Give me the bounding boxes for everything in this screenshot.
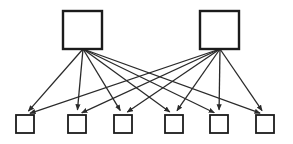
top-node-t1[interactable] bbox=[63, 11, 102, 49]
edges-layer bbox=[28, 49, 262, 113]
diagram-canvas bbox=[0, 0, 293, 144]
edge-t2-to-b1 bbox=[30, 49, 220, 113]
bottom-node-b4[interactable] bbox=[165, 115, 183, 133]
edge-t2-to-b3 bbox=[127, 49, 220, 112]
edge-t1-to-b1 bbox=[28, 49, 83, 111]
edge-t1-to-b6 bbox=[83, 49, 260, 113]
bottom-node-b1[interactable] bbox=[16, 115, 34, 133]
top-node-t2[interactable] bbox=[200, 11, 239, 49]
bottom-node-b3[interactable] bbox=[114, 115, 132, 133]
edge-t1-to-b2 bbox=[77, 49, 83, 110]
bottom-node-b5[interactable] bbox=[210, 115, 228, 133]
graph-svg bbox=[0, 0, 293, 144]
bottom-node-b6[interactable] bbox=[256, 115, 274, 133]
bottom-node-b2[interactable] bbox=[68, 115, 86, 133]
edge-t2-to-b5 bbox=[219, 49, 220, 110]
